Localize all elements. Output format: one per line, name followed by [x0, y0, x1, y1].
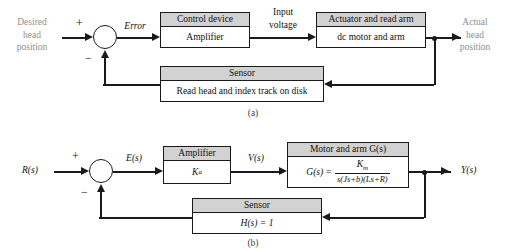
block-control-device-header: Control device [161, 13, 249, 27]
block-actuator-body: dc motor and arm [317, 27, 425, 47]
input-label-a: Desiredheadposition [2, 16, 62, 54]
feedback-into-sensor-a [332, 84, 434, 86]
error-arrowhead-b [155, 167, 163, 175]
amplifier-gain-subscript: a [198, 166, 202, 178]
transfer-function-expression: G(s) = Km s(Js+b)(Ls+R) [306, 159, 389, 186]
feedback-vline-b [100, 192, 102, 218]
input-arrowhead-a [85, 33, 93, 41]
error-arrowhead-a [152, 33, 160, 41]
block-sensor-b-body: H(s) = 1 [193, 213, 321, 233]
block-sensor-b: Sensor H(s) = 1 [192, 198, 322, 234]
output-label-b: Y(s) [461, 164, 476, 177]
transfer-function-lhs: G(s) = [306, 166, 332, 178]
feedback-arrowhead-a [101, 50, 109, 58]
error-label-a: Error [112, 20, 158, 33]
block-sensor-a-body: Read head and index track on disk [161, 81, 323, 101]
block-actuator: Actuator and read arm dc motor and arm [316, 12, 426, 48]
transfer-function-denominator: s(Js+b)(Ls+R) [335, 173, 390, 185]
sensor-output-line-b [99, 217, 193, 219]
block-control-device: Control device Amplifier [160, 12, 250, 48]
block-control-device-body: Amplifier [161, 27, 249, 47]
block-motor-arm-header: Motor and arm G(s) [288, 143, 408, 157]
sensor-input-arrowhead-b [322, 213, 330, 221]
input-line-b [54, 171, 84, 173]
input-label-b: R(s) [22, 164, 38, 177]
input-voltage-line-a [250, 37, 312, 39]
block-amplifier-header: Amplifier [164, 147, 230, 161]
minus-sign-b: − [81, 186, 88, 198]
diagram-panel-b: R(s) + − E(s) Amplifier Ka V(s) Motor an… [0, 126, 507, 251]
error-line-b [113, 171, 158, 173]
error-label-b: E(s) [110, 152, 158, 165]
output-arrowhead-a [452, 33, 460, 41]
input-voltage-arrowhead-a [308, 33, 316, 41]
block-motor-arm-body: G(s) = Km s(Js+b)(Ls+R) [288, 157, 408, 187]
feedback-arrowhead-b [97, 184, 105, 192]
caption-b: (b) [233, 238, 273, 248]
block-amplifier: Amplifier Ka [163, 146, 231, 184]
diagram-panel-a: Desiredheadposition + − Error Control de… [0, 0, 507, 126]
caption-a: (a) [233, 108, 273, 118]
sensor-input-arrowhead-a [324, 80, 332, 88]
block-sensor-a-header: Sensor [161, 67, 323, 81]
transfer-function-fraction: Km s(Js+b)(Ls+R) [335, 159, 390, 186]
block-sensor-a: Sensor Read head and index track on disk [160, 66, 324, 102]
input-arrowhead-b [81, 167, 89, 175]
feedback-down-b [424, 171, 426, 218]
block-motor-arm: Motor and arm G(s) G(s) = Km s(Js+b)(Ls+… [287, 142, 409, 188]
plus-sign-b: + [72, 150, 79, 162]
error-line-a [117, 37, 155, 39]
feedback-vline-a [104, 58, 106, 85]
signal-label-b: V(s) [232, 152, 280, 165]
output-arrowhead-b [441, 167, 449, 175]
block-sensor-b-header: Sensor [193, 199, 321, 213]
plus-sign-a: + [76, 17, 83, 29]
output-junction-dot-a [432, 36, 437, 41]
signal-line-b [231, 171, 283, 173]
block-amplifier-body: Ka [164, 161, 230, 183]
feedback-into-sensor-b [330, 217, 424, 219]
feedback-down-a [434, 37, 436, 85]
signal-arrowhead-b [279, 167, 287, 175]
output-junction-dot-b [422, 170, 427, 175]
minus-sign-a: − [85, 52, 92, 64]
transfer-function-numerator: Km [335, 159, 390, 174]
block-diagram-figure: Desiredheadposition + − Error Control de… [0, 0, 507, 251]
signal-label-a: Inputvoltage [256, 6, 310, 31]
sensor-output-line-a [103, 84, 161, 86]
block-actuator-header: Actuator and read arm [317, 13, 425, 27]
